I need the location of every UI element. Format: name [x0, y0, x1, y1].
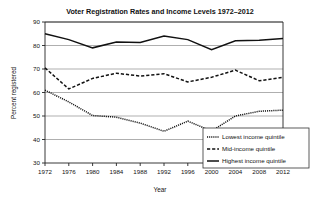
gridlines [45, 22, 283, 140]
chart-legend: Lowest income quintileMid-income quintil… [203, 128, 309, 168]
x-tick-label: 1992 [157, 168, 171, 175]
legend-label: Highest income quintile [222, 157, 287, 164]
x-tick-label: 1988 [133, 168, 147, 175]
legend-label: Lowest income quintile [222, 133, 285, 140]
y-tick-label: 80 [33, 42, 40, 49]
x-tick-label: 1980 [86, 168, 100, 175]
x-tick-label: 1996 [181, 168, 195, 175]
line-chart: Voter Registration Rates and Income Leve… [0, 0, 313, 201]
y-tick-label: 40 [33, 136, 40, 143]
y-axis-ticks: 30405060708090 [33, 18, 45, 166]
y-tick-label: 90 [33, 18, 40, 25]
x-axis-label: Year [154, 186, 168, 193]
y-tick-label: 60 [33, 89, 40, 96]
x-tick-label: 2008 [252, 168, 266, 175]
y-axis-label: Percent registered [10, 66, 18, 119]
x-tick-label: 2000 [205, 168, 219, 175]
series-line [45, 90, 283, 131]
y-tick-label: 50 [33, 112, 40, 119]
series-line [45, 68, 283, 89]
x-tick-label: 1984 [110, 168, 124, 175]
x-tick-label: 2012 [276, 168, 290, 175]
chart-container: Voter Registration Rates and Income Leve… [0, 0, 313, 201]
x-tick-label: 2004 [229, 168, 243, 175]
legend-label: Mid-income quintile [222, 145, 276, 152]
data-series-layer [45, 34, 283, 132]
y-tick-label: 30 [33, 159, 40, 166]
chart-title: Voter Registration Rates and Income Leve… [66, 7, 254, 16]
x-tick-label: 1976 [62, 168, 76, 175]
series-line [45, 34, 283, 50]
x-tick-label: 1972 [38, 168, 52, 175]
y-tick-label: 70 [33, 65, 40, 72]
